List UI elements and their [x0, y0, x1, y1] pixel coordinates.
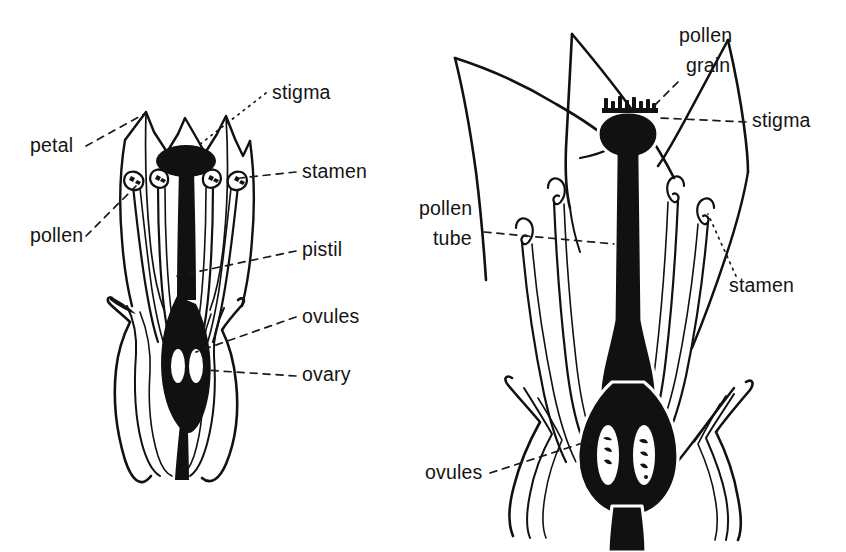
label-stamen-right: stamen — [729, 274, 794, 296]
embryo-mark-7 — [644, 475, 648, 479]
label-pollen-grain-line2: grain — [686, 54, 730, 76]
flower-diagram-figure: petal pollen stigma stamen pistil ovules… — [0, 0, 846, 552]
style-left — [177, 170, 196, 300]
label-pollen-grain-line1: pollen — [679, 24, 732, 46]
ovule-left-2 — [189, 349, 203, 383]
label-pollen: pollen — [30, 224, 83, 246]
label-ovules-right: ovules — [425, 461, 483, 483]
receptacle-right — [608, 506, 646, 552]
label-pistil: pistil — [302, 238, 342, 260]
diagram-canvas: petal pollen stigma stamen pistil ovules… — [0, 0, 846, 552]
label-stamen: stamen — [302, 160, 367, 182]
ovule-left-1 — [171, 349, 185, 383]
label-ovules: ovules — [302, 305, 360, 327]
label-pollen-tube-line2: tube — [433, 227, 472, 249]
label-stigma: stigma — [272, 81, 331, 103]
ovule-right-1 — [597, 425, 619, 485]
label-ovary: ovary — [302, 363, 351, 385]
label-stigma-right: stigma — [752, 109, 811, 131]
label-pollen-tube-line1: pollen — [419, 197, 472, 219]
label-petal: petal — [30, 134, 73, 156]
